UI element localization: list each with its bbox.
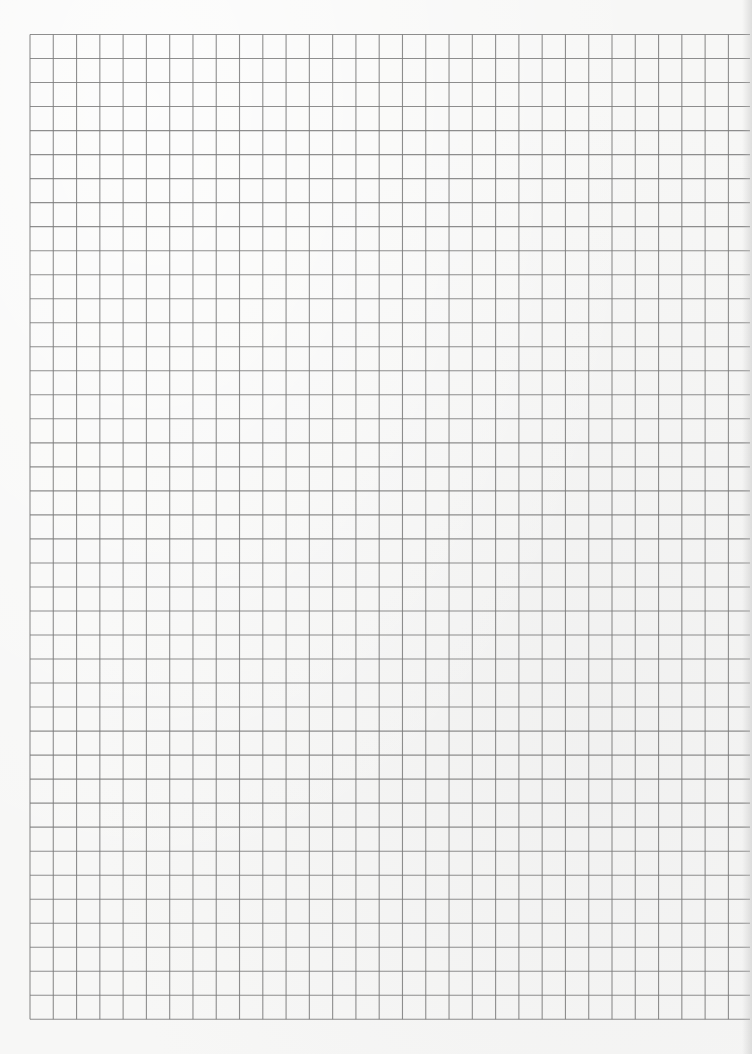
graph-paper-sheet — [0, 0, 752, 1054]
grid-lines — [0, 0, 752, 1054]
scan-edge-shadow — [742, 0, 752, 1054]
